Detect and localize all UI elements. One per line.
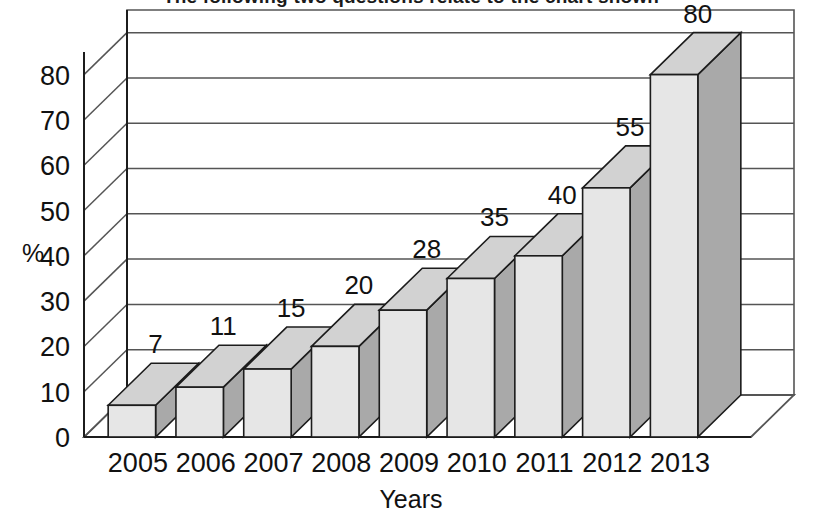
bar-value-label: 35 bbox=[480, 202, 509, 232]
bar-2013 bbox=[650, 33, 740, 437]
x-tick-label: 2007 bbox=[243, 448, 303, 478]
x-tick-label: 2012 bbox=[582, 448, 642, 478]
y-tick-labels: 01020304050607080 bbox=[40, 61, 70, 453]
y-tick-label: 0 bbox=[55, 423, 70, 453]
x-tick-label: 2006 bbox=[176, 448, 236, 478]
bar-value-label: 55 bbox=[616, 112, 645, 142]
y-tick-label: 70 bbox=[40, 106, 70, 136]
y-tick-label: 40 bbox=[40, 242, 70, 272]
y-tick-label: 60 bbox=[40, 151, 70, 181]
bar-value-label: 80 bbox=[683, 0, 712, 29]
y-tick-label: 30 bbox=[40, 287, 70, 317]
bar-value-label: 40 bbox=[548, 180, 577, 210]
y-tick-label: 10 bbox=[40, 378, 70, 408]
x-tick-label: 2005 bbox=[108, 448, 168, 478]
x-tick-label: 2010 bbox=[447, 448, 507, 478]
bar-chart: 01020304050607080 2005200620072008200920… bbox=[0, 0, 822, 522]
x-tick-label: 2009 bbox=[379, 448, 439, 478]
y-tick-label: 50 bbox=[40, 197, 70, 227]
y-axis-title: % bbox=[22, 239, 44, 267]
bar-value-label: 28 bbox=[412, 234, 441, 264]
bar-value-label: 7 bbox=[148, 329, 162, 359]
x-tick-label: 2013 bbox=[650, 448, 710, 478]
bar-value-label: 15 bbox=[277, 293, 306, 323]
x-tick-label: 2008 bbox=[311, 448, 371, 478]
chart-page: The following two questions relate to th… bbox=[0, 0, 822, 522]
x-tick-label: 2011 bbox=[516, 448, 574, 478]
x-tick-labels: 200520062007200820092010201120122013 bbox=[108, 448, 710, 478]
bar-value-label: 20 bbox=[344, 270, 373, 300]
y-tick-label: 20 bbox=[40, 332, 70, 362]
y-tick-label: 80 bbox=[40, 61, 70, 91]
x-axis-title: Years bbox=[379, 485, 442, 513]
bar-value-label: 11 bbox=[210, 311, 237, 341]
